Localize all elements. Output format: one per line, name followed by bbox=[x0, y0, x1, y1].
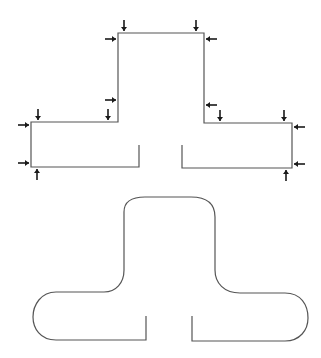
arrow-left-icon bbox=[294, 124, 305, 130]
arrow-down-icon bbox=[105, 109, 111, 120]
rounded-t-outline bbox=[33, 197, 308, 341]
arrow-head bbox=[294, 161, 298, 167]
arrow-head bbox=[112, 36, 116, 42]
arrow-head bbox=[35, 116, 41, 120]
arrow-left-icon bbox=[206, 102, 217, 108]
arrow-head bbox=[281, 117, 287, 121]
arrow-head bbox=[34, 169, 40, 173]
arrow-head bbox=[283, 170, 289, 174]
arrow-right-icon bbox=[105, 36, 116, 42]
arrow-down-icon bbox=[281, 110, 287, 121]
arrow-head bbox=[105, 116, 111, 120]
arrow-down-icon bbox=[121, 20, 127, 31]
arrow-right-icon bbox=[105, 97, 116, 103]
diagram-canvas bbox=[0, 0, 321, 358]
arrow-down-icon bbox=[217, 110, 223, 121]
arrow-down-icon bbox=[35, 109, 41, 120]
arrow-left-icon bbox=[294, 161, 305, 167]
arrow-up-icon bbox=[283, 170, 289, 181]
arrow-right-icon bbox=[18, 160, 29, 166]
arrow-head bbox=[25, 122, 29, 128]
arrow-head bbox=[121, 27, 127, 31]
arrow-head bbox=[294, 124, 298, 130]
arrow-left-icon bbox=[206, 36, 217, 42]
arrow-right-icon bbox=[18, 122, 29, 128]
arrow-down-icon bbox=[193, 20, 199, 31]
arrow-head bbox=[217, 117, 223, 121]
arrow-up-icon bbox=[34, 169, 40, 180]
arrow-head bbox=[25, 160, 29, 166]
sharp-t-outline bbox=[31, 33, 292, 168]
arrow-head bbox=[206, 36, 210, 42]
arrow-group bbox=[18, 20, 305, 181]
arrow-head bbox=[206, 102, 210, 108]
arrow-head bbox=[112, 97, 116, 103]
arrow-head bbox=[193, 27, 199, 31]
